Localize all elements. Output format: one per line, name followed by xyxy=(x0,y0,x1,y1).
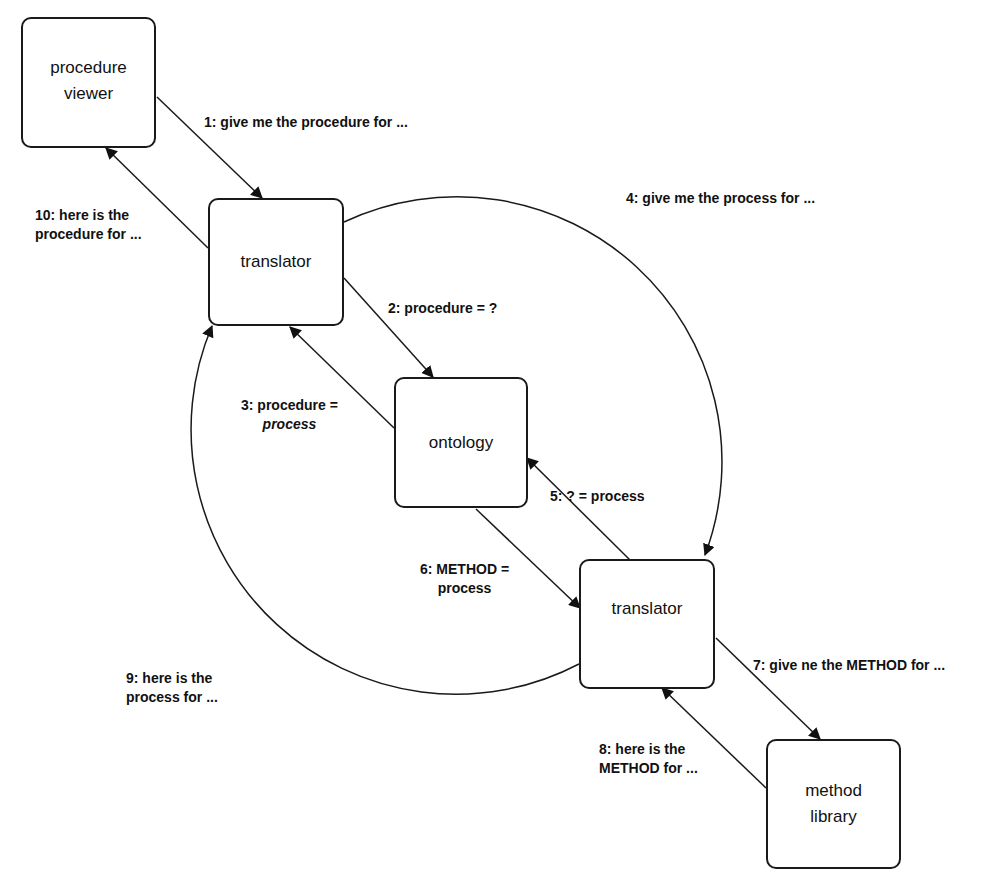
node-ontology: ontology xyxy=(394,377,528,508)
arrow-5 xyxy=(527,458,630,560)
message-label-10: 10: here is the procedure for ... xyxy=(35,206,142,244)
node-procedure-viewer: procedure viewer xyxy=(21,17,156,148)
node-label: viewer xyxy=(64,81,113,107)
node-label: method xyxy=(805,778,862,804)
message-label-8: 8: here is the METHOD for ... xyxy=(599,740,698,778)
node-label: ontology xyxy=(429,430,493,456)
arrow-7 xyxy=(716,638,820,739)
message-label-7: 7: give ne the METHOD for ... xyxy=(753,656,945,675)
node-translator-top: translator xyxy=(208,198,344,326)
message-label-6: 6: METHOD = process xyxy=(420,560,509,598)
node-label: translator xyxy=(612,596,683,622)
message-label-4: 4: give me the process for ... xyxy=(626,189,815,208)
message-label-3: 3: procedure = process xyxy=(241,396,338,434)
message-label-2: 2: procedure = ? xyxy=(388,299,497,318)
node-label: translator xyxy=(241,249,312,275)
message-label-1: 1: give me the procedure for ... xyxy=(204,113,408,132)
node-translator-bottom: translator xyxy=(579,559,715,689)
node-label: library xyxy=(810,804,856,830)
arrow-2 xyxy=(344,278,433,377)
message-label-9: 9: here is the process for ... xyxy=(126,669,218,707)
node-label: procedure xyxy=(50,55,127,81)
node-method-library: method library xyxy=(766,739,901,869)
message-label-5: 5: ? = process xyxy=(550,487,645,506)
